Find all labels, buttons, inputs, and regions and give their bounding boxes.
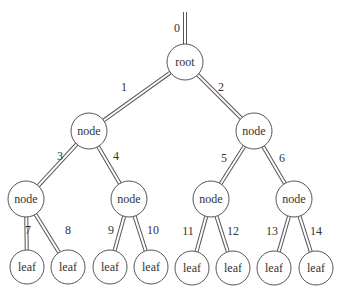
node-label: root bbox=[175, 55, 195, 69]
node-label: node bbox=[199, 192, 222, 206]
edge-label-2: 2 bbox=[218, 80, 224, 94]
node-label: node bbox=[77, 124, 100, 138]
tree-node-l7: leaf bbox=[10, 250, 44, 284]
edge-label-1: 1 bbox=[121, 80, 127, 94]
node-label: node bbox=[14, 192, 37, 206]
tree-node-l14: leaf bbox=[299, 251, 333, 285]
node-label: leaf bbox=[59, 260, 77, 274]
tree-node-l9: leaf bbox=[93, 250, 127, 284]
tree-node-n6: node bbox=[276, 181, 312, 217]
node-label: node bbox=[117, 192, 140, 206]
tree-node-n4: node bbox=[111, 181, 147, 217]
tree-node-n5: node bbox=[193, 181, 229, 217]
edge-9 bbox=[115, 216, 125, 250]
edge-11 bbox=[197, 216, 207, 251]
edge-1 bbox=[104, 73, 171, 121]
node-label: leaf bbox=[183, 261, 201, 275]
edge-label-8: 8 bbox=[65, 223, 71, 237]
edge-label-11: 11 bbox=[182, 224, 194, 238]
node-label: node bbox=[242, 124, 265, 138]
edge-label-5: 5 bbox=[221, 151, 227, 165]
edge-13 bbox=[279, 216, 289, 251]
node-label: leaf bbox=[101, 260, 119, 274]
tree-diagram: 01234567891011121314 rootnodenodenodenod… bbox=[0, 0, 346, 300]
tree-node-n1: node bbox=[71, 113, 107, 149]
edge-label-14: 14 bbox=[310, 224, 322, 238]
edge-label-7: 7 bbox=[25, 223, 31, 237]
tree-node-l10: leaf bbox=[134, 250, 168, 284]
node-label: leaf bbox=[142, 260, 160, 274]
edge-8 bbox=[35, 214, 59, 252]
node-label: leaf bbox=[224, 261, 242, 275]
tree-node-root: root bbox=[167, 44, 203, 80]
node-label: leaf bbox=[18, 260, 36, 274]
node-label: leaf bbox=[307, 261, 325, 275]
tree-node-l12: leaf bbox=[216, 251, 250, 285]
node-label: node bbox=[282, 192, 305, 206]
edge-label-4: 4 bbox=[113, 149, 119, 163]
edge-label-12: 12 bbox=[227, 224, 239, 238]
tree-node-l11: leaf bbox=[175, 251, 209, 285]
edge-label-3: 3 bbox=[57, 149, 63, 163]
node-label: leaf bbox=[265, 261, 283, 275]
tree-node-n3: node bbox=[8, 181, 44, 217]
edge-label-6: 6 bbox=[279, 151, 285, 165]
edge-label-13: 13 bbox=[266, 224, 278, 238]
tree-node-l13: leaf bbox=[257, 251, 291, 285]
edge-label-0: 0 bbox=[174, 21, 180, 35]
edge-label-9: 9 bbox=[108, 223, 114, 237]
tree-node-l8: leaf bbox=[51, 250, 85, 284]
edge-10 bbox=[135, 216, 146, 251]
edge-label-10: 10 bbox=[147, 223, 159, 237]
tree-node-n2: node bbox=[236, 113, 272, 149]
